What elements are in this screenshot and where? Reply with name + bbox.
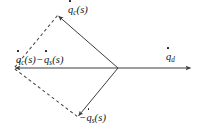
label-q-dot-d: qd (166, 52, 175, 64)
argument: (s) (95, 112, 106, 123)
q-dot-glyph: q (68, 5, 73, 16)
vector-arrow-qc (59, 16, 118, 68)
overdot-icon (17, 50, 19, 52)
overdot-icon (167, 47, 169, 49)
q-dot-glyph-term-one: q (16, 55, 21, 66)
variable-base-two: q (44, 54, 49, 65)
dashed-edge-left-to-bottom (15, 69, 77, 116)
minus-operator: − (36, 54, 44, 65)
variable-base: q (166, 51, 171, 62)
argument-one: (s) (25, 54, 36, 65)
q-dot-glyph-term-two: q (44, 55, 49, 66)
argument-two: (s) (52, 54, 63, 65)
q-dot-glyph: q (86, 113, 91, 124)
variable-base-one: q (16, 54, 21, 65)
label-minus-q-dot-s-of-s: −qs(s) (80, 113, 106, 125)
overdot-icon (45, 50, 47, 52)
variable-base: q (68, 4, 73, 15)
vector-diagram-figure: qc(s) qc(s)−qs(s) −qs(s) qd (0, 0, 203, 135)
argument: (s) (77, 4, 88, 15)
vector-arrow-minus-qs (79, 68, 118, 116)
label-q-dot-c-of-s: qc(s) (68, 5, 88, 17)
overdot-icon (69, 0, 71, 2)
label-q-dot-c-minus-q-dot-s: qc(s)−qs(s) (16, 55, 64, 67)
subscript: d (171, 56, 175, 64)
q-dot-glyph: q (166, 52, 171, 63)
variable-base: q (86, 112, 91, 123)
